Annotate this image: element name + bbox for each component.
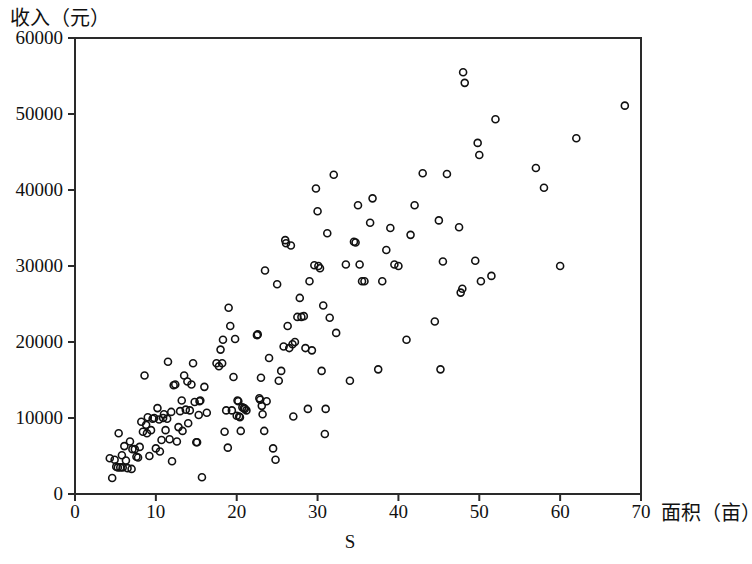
data-point <box>312 185 319 192</box>
data-point <box>173 438 180 445</box>
data-point <box>290 413 297 420</box>
data-point <box>225 304 232 311</box>
data-point <box>443 171 450 178</box>
data-point <box>201 383 208 390</box>
data-point <box>477 278 484 285</box>
data-point <box>154 405 161 412</box>
data-point <box>217 346 224 353</box>
data-point <box>266 354 273 361</box>
data-point <box>324 230 331 237</box>
data-point <box>115 430 122 437</box>
data-point <box>621 102 628 109</box>
data-point <box>259 411 266 418</box>
data-point <box>460 69 467 76</box>
data-point <box>164 358 171 365</box>
data-point <box>224 444 231 451</box>
data-point <box>190 360 197 367</box>
data-point <box>274 281 281 288</box>
data-point <box>158 437 165 444</box>
data-point <box>146 453 153 460</box>
data-point <box>419 170 426 177</box>
data-point <box>296 294 303 301</box>
data-point <box>472 257 479 264</box>
data-point <box>126 438 133 445</box>
data-point <box>330 171 337 178</box>
data-point <box>492 116 499 123</box>
data-point <box>532 164 539 171</box>
data-point <box>261 427 268 434</box>
data-point <box>342 261 349 268</box>
data-point <box>275 377 282 384</box>
data-point <box>387 225 394 232</box>
data-point <box>122 457 129 464</box>
data-point <box>431 318 438 325</box>
data-point <box>573 135 580 142</box>
data-point <box>237 427 244 434</box>
data-point <box>270 445 277 452</box>
data-point <box>322 405 329 412</box>
data-point <box>166 436 173 443</box>
data-point <box>488 272 495 279</box>
data-point <box>284 323 291 330</box>
data-point <box>326 314 333 321</box>
data-point <box>439 258 446 265</box>
data-point <box>407 231 414 238</box>
data-point <box>355 202 362 209</box>
data-point <box>333 329 340 336</box>
data-point <box>461 79 468 86</box>
data-point <box>557 263 564 270</box>
data-point <box>178 397 185 404</box>
data-point-group <box>106 69 628 482</box>
data-point <box>474 139 481 146</box>
data-point <box>383 247 390 254</box>
data-point <box>219 336 226 343</box>
data-point <box>379 278 386 285</box>
data-point <box>304 405 311 412</box>
data-point <box>375 366 382 373</box>
data-point <box>230 373 237 380</box>
data-point <box>232 335 239 342</box>
data-point <box>435 217 442 224</box>
data-point <box>369 195 376 202</box>
data-point <box>540 184 547 191</box>
data-point <box>367 219 374 226</box>
data-point <box>221 428 228 435</box>
data-point <box>262 267 269 274</box>
data-point <box>109 475 116 482</box>
data-point <box>185 420 192 427</box>
data-point <box>203 409 210 416</box>
data-point <box>162 427 169 434</box>
data-point <box>141 372 148 379</box>
data-point <box>195 411 202 418</box>
data-point <box>356 261 363 268</box>
data-point <box>168 408 175 415</box>
data-point <box>198 474 205 481</box>
data-point <box>306 278 313 285</box>
data-point <box>321 430 328 437</box>
data-point <box>169 458 176 465</box>
data-point <box>403 336 410 343</box>
data-point <box>278 367 285 374</box>
data-point <box>320 302 327 309</box>
data-point <box>456 224 463 231</box>
data-point <box>437 366 444 373</box>
data-point <box>346 377 353 384</box>
data-point <box>314 208 321 215</box>
data-point <box>272 456 279 463</box>
data-point <box>411 202 418 209</box>
data-point <box>318 367 325 374</box>
data-point <box>308 347 315 354</box>
data-point <box>476 152 483 159</box>
data-point <box>227 323 234 330</box>
data-point <box>257 374 264 381</box>
